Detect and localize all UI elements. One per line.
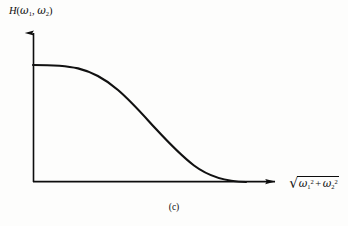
- y-label-omega-1: ω: [20, 4, 29, 16]
- figure-panel: H(ω1, ω2) √ω12+ω22 (c): [0, 0, 348, 226]
- x-label-omega-2: ω: [323, 177, 332, 189]
- y-label-omega-2: ω: [37, 4, 46, 16]
- radical-expression: √ω12+ω22: [288, 175, 339, 190]
- y-label-close-paren: ): [49, 5, 53, 16]
- y-label-function: H: [9, 5, 17, 16]
- x-label-plus: +: [314, 178, 323, 189]
- x-label-sup-2: 2: [334, 178, 337, 185]
- x-label-omega-1: ω: [299, 177, 308, 189]
- lowpass-response-plot: [0, 0, 348, 226]
- figure-caption: (c): [0, 203, 348, 213]
- radical-sign: √: [289, 176, 298, 190]
- radicand: ω12+ω22: [297, 176, 339, 190]
- frequency-response-curve: [33, 65, 246, 182]
- y-axis-label: H(ω1, ω2): [9, 5, 52, 17]
- x-axis-label: √ω12+ω22: [288, 175, 339, 190]
